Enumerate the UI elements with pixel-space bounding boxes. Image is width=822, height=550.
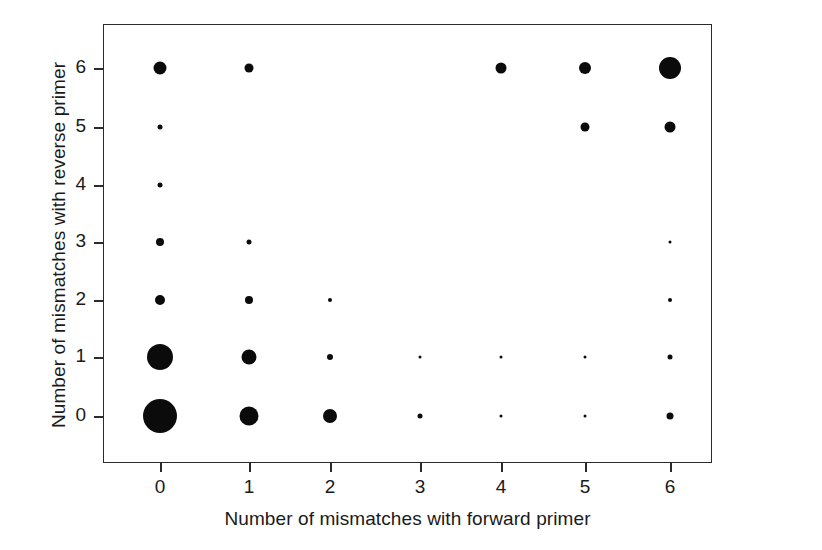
y-axis-title: Number of mismatches with reverse primer: [48, 10, 70, 480]
y-tick-mark: [94, 185, 103, 187]
x-tick-label: 0: [140, 476, 180, 498]
plot-frame: [103, 24, 712, 463]
x-tick-mark: [160, 463, 162, 472]
y-tick-mark: [94, 127, 103, 129]
x-tick-mark: [670, 463, 672, 472]
x-tick-label: 2: [310, 476, 350, 498]
x-tick-label: 4: [481, 476, 521, 498]
x-tick-mark: [330, 463, 332, 472]
scatter-plot-figure: 0123456 0123456 Number of mismatches wit…: [0, 0, 822, 550]
y-tick-mark: [94, 357, 103, 359]
x-tick-mark: [501, 463, 503, 472]
y-tick-mark: [94, 416, 103, 418]
x-tick-label: 3: [400, 476, 440, 498]
y-tick-mark: [94, 300, 103, 302]
x-tick-label: 6: [650, 476, 690, 498]
y-tick-mark: [94, 68, 103, 70]
x-axis-title: Number of mismatches with forward primer: [103, 508, 712, 530]
x-tick-mark: [249, 463, 251, 472]
x-tick-label: 1: [229, 476, 269, 498]
y-tick-mark: [94, 242, 103, 244]
x-tick-mark: [585, 463, 587, 472]
x-tick-label: 5: [565, 476, 605, 498]
x-tick-mark: [420, 463, 422, 472]
